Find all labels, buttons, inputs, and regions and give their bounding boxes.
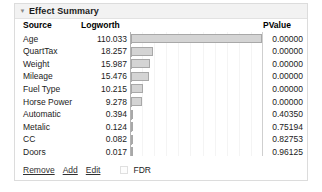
cell-pvalue: 0.00000 [257, 96, 303, 109]
effect-summary-panel: ▼ Effect Summary Source Logworth PValue … [14, 3, 308, 181]
chart-bar[interactable] [131, 34, 262, 43]
page-title: Effect Summary [29, 6, 99, 16]
panel-title-bar[interactable]: ▼ Effect Summary [15, 4, 307, 19]
fdr-checkbox[interactable] [120, 166, 128, 174]
cell-pvalue: 0.82753 [257, 133, 303, 146]
axis-tick [130, 81, 132, 82]
table-row[interactable]: Fuel Type10.2150.00000 [15, 83, 307, 96]
fdr-label: FDR [133, 165, 150, 175]
cell-pvalue: 0.40350 [257, 108, 303, 121]
chart-bar[interactable] [131, 59, 150, 68]
panel-footer: Remove Add Edit FDR [15, 163, 307, 177]
add-button[interactable]: Add [63, 165, 78, 175]
cell-logworth: 0.394 [77, 108, 127, 121]
cell-pvalue: 0.00000 [257, 33, 303, 46]
column-header-source[interactable]: Source [23, 19, 89, 32]
cell-pvalue: 0.00000 [257, 45, 303, 58]
chart-bar[interactable] [131, 72, 149, 81]
edit-button[interactable]: Edit [86, 165, 101, 175]
table-row[interactable]: Weight15.9870.00000 [15, 58, 307, 71]
table-row[interactable]: Automatic0.3940.40350 [15, 108, 307, 121]
cell-pvalue: 0.75194 [257, 121, 303, 134]
chart-bar[interactable] [131, 97, 142, 106]
axis-tick [130, 119, 132, 120]
chart-bar[interactable] [131, 110, 133, 119]
table-row[interactable]: Mileage15.4760.00000 [15, 70, 307, 83]
cell-logworth: 110.033 [77, 33, 127, 46]
table-header-row: Source Logworth PValue [15, 19, 307, 32]
axis-tick [130, 93, 132, 94]
cell-logworth: 0.017 [77, 146, 127, 159]
table-row[interactable]: Doors0.0170.96125 [15, 146, 307, 159]
cell-pvalue: 0.00000 [257, 58, 303, 71]
chart-bar[interactable] [131, 147, 133, 156]
axis-tick [130, 106, 132, 107]
table-row[interactable]: QuartTax18.2570.00000 [15, 45, 307, 58]
table-row[interactable]: CC0.0820.82753 [15, 133, 307, 146]
cell-logworth: 0.082 [77, 133, 127, 146]
chart-bar[interactable] [131, 47, 153, 56]
axis-tick [130, 68, 132, 69]
cell-pvalue: 0.00000 [257, 70, 303, 83]
cell-logworth: 9.278 [77, 96, 127, 109]
chart-bar[interactable] [131, 84, 143, 93]
remove-button[interactable]: Remove [23, 165, 55, 175]
cell-logworth: 15.987 [77, 58, 127, 71]
column-header-pvalue[interactable]: PValue [263, 19, 309, 32]
cell-pvalue: 0.96125 [257, 146, 303, 159]
chart-bar[interactable] [131, 122, 133, 131]
table-row[interactable]: Metalic0.1240.75194 [15, 121, 307, 134]
axis-tick [130, 131, 132, 132]
cell-logworth: 0.124 [77, 121, 127, 134]
cell-logworth: 15.476 [77, 70, 127, 83]
axis-tick [130, 56, 132, 57]
table-row[interactable]: Horse Power9.2780.00000 [15, 96, 307, 109]
effect-summary-table: Source Logworth PValue Age110.0330.00000… [15, 19, 307, 182]
chart-bar[interactable] [131, 135, 133, 144]
axis-tick [130, 144, 132, 145]
column-header-logworth[interactable]: Logworth [81, 19, 131, 32]
cell-logworth: 18.257 [77, 45, 127, 58]
triangle-down-icon[interactable]: ▼ [16, 8, 29, 14]
cell-pvalue: 0.00000 [257, 83, 303, 96]
cell-logworth: 10.215 [77, 83, 127, 96]
axis-tick [130, 43, 132, 44]
